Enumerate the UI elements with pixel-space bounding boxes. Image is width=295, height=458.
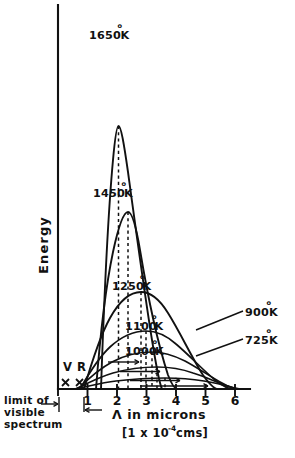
visible-spectrum-note-line3: spectrum	[4, 418, 63, 430]
x-tick-label-4: 4	[172, 393, 181, 408]
curve-label-1250k-unit: K	[143, 280, 153, 293]
x-axis-title: Λ in microns	[112, 407, 206, 422]
curve-label-725k-unit: K	[269, 334, 279, 347]
curve-label-1250k-value: 1250	[112, 280, 144, 293]
x-tick-label-6: 6	[231, 393, 240, 408]
visible-spectrum-note-line2: visible	[4, 406, 45, 418]
x-axis-subtitle-suffix: cms]	[176, 426, 208, 440]
curve-label-1100k-unit: K	[155, 320, 165, 333]
red-marker-label: R	[77, 360, 87, 374]
curve-label-1000k-unit: K	[155, 345, 165, 358]
curve-label-1100k-value: 1100	[125, 320, 157, 333]
violet-marker-label: V	[63, 360, 73, 374]
curve-label-1650k-value: 1650	[89, 29, 121, 42]
chart-svg: 1 2 3 4 5 6 1650	[0, 0, 295, 458]
curve-label-900k-value: 900	[245, 306, 269, 319]
x-axis-subtitle-exponent: -4	[168, 424, 176, 433]
curve-label-1000k-value: 1000	[125, 345, 157, 358]
visible-spectrum-note-line1: limit of	[4, 394, 49, 406]
blackbody-radiation-figure: 1 2 3 4 5 6 1650	[0, 0, 295, 458]
x-axis-subtitle-prefix: [1 x 10	[122, 426, 169, 440]
curve-label-725k-value: 725	[245, 334, 269, 347]
curve-label-900k-unit: K	[269, 306, 279, 319]
x-tick-label-3: 3	[142, 393, 151, 408]
x-tick-label-5: 5	[201, 393, 210, 408]
x-tick-label-2: 2	[113, 393, 122, 408]
curve-label-1450k-unit: K	[124, 187, 134, 200]
curve-label-1450k-value: 1450	[93, 187, 125, 200]
x-axis-subtitle: [1 x 10 -4 cms]	[122, 424, 208, 440]
y-axis-title: Energy	[36, 216, 51, 274]
curve-label-1650k-unit: K	[121, 29, 131, 42]
